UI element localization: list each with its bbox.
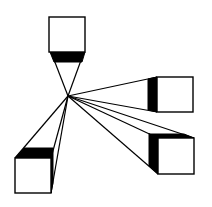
cube-left-lower bbox=[15, 96, 68, 193]
cube-ru-front-face bbox=[157, 77, 193, 112]
cube-top-front-face bbox=[49, 17, 85, 52]
ray-rl-bottom bbox=[68, 96, 158, 174]
cube-top-bottom-face bbox=[50, 52, 85, 62]
perspective-diagram bbox=[0, 0, 212, 207]
cube-ll-top-face bbox=[15, 148, 53, 158]
cube-ll-front-face bbox=[15, 158, 51, 193]
cube-rl-front-face bbox=[158, 138, 194, 174]
cube-ru-left-face bbox=[148, 77, 157, 112]
ray-ll-bottom-right bbox=[51, 96, 68, 193]
cube-right-upper bbox=[68, 77, 193, 112]
ray-ru-bottom bbox=[68, 96, 157, 112]
ray-ru-top bbox=[68, 77, 157, 96]
ray-rl-top-left bbox=[68, 96, 158, 138]
cube-top bbox=[49, 17, 85, 96]
vanishing-point bbox=[67, 95, 69, 97]
